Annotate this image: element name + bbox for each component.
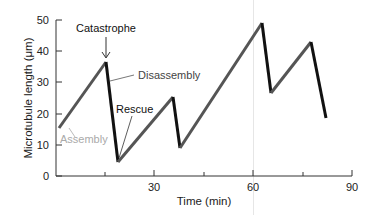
x-axis-title: Time (min): [177, 195, 232, 207]
assembly-segment: [180, 23, 262, 148]
y-tick-label: 40: [37, 45, 49, 57]
x-tick-label: 90: [346, 181, 358, 193]
disassembly-segment: [262, 23, 271, 93]
y-tick-label: 10: [37, 139, 49, 151]
svg-text:Rescue: Rescue: [116, 103, 153, 115]
x-tick-label: 30: [148, 181, 160, 193]
svg-text:Disassembly: Disassembly: [138, 69, 201, 81]
y-tick-label: 0: [43, 170, 49, 182]
annotation-catastrophe: Catastrophe: [76, 22, 136, 58]
disassembly-segment: [173, 97, 180, 148]
y-tick-label: 50: [37, 14, 49, 26]
annotation-rescue: Rescue: [116, 103, 153, 158]
y-axis-title: Microtubule length (μm): [22, 37, 34, 158]
annotation-disassembly: Disassembly: [110, 69, 201, 81]
annotation-assembly: Assembly: [60, 128, 108, 145]
microtubule-length-chart: 0 10 20 30 40 50 Microtubule length (μm)…: [0, 0, 374, 215]
y-axis: 0 10 20 30 40 50 Microtubule length (μm): [22, 14, 62, 182]
y-tick-label: 20: [37, 108, 49, 120]
svg-text:Assembly: Assembly: [60, 133, 108, 145]
x-axis: 30 60 90 Time (min): [56, 170, 358, 207]
assembly-segment: [59, 62, 106, 128]
assembly-segment: [271, 42, 311, 93]
disassembly-segment: [311, 42, 326, 118]
x-tick-label: 60: [247, 181, 259, 193]
y-tick-label: 30: [37, 76, 49, 88]
svg-text:Catastrophe: Catastrophe: [76, 22, 136, 34]
